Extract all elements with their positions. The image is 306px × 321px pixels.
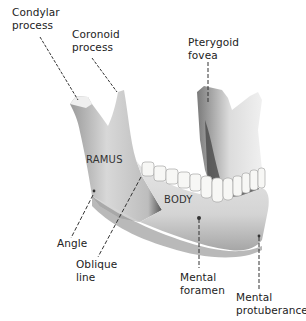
label-coronoid-process: Coronoid process [72,28,120,54]
label-oblique-line: Oblique line [76,258,117,284]
label-mental-protuberance: Mental protuberance [236,291,306,317]
label-mental-foramen: Mental foramen [180,271,225,297]
label-condylar-process: Condylar process [12,6,60,32]
mandible-diagram: Condylar process Coronoid process Pteryg… [0,0,306,321]
region-body: BODY [164,194,193,205]
mandible-illustration [0,0,306,321]
region-ramus: RAMUS [86,154,123,165]
label-pterygoid-fovea: Pterygoid fovea [188,36,239,62]
label-angle: Angle [57,237,87,250]
